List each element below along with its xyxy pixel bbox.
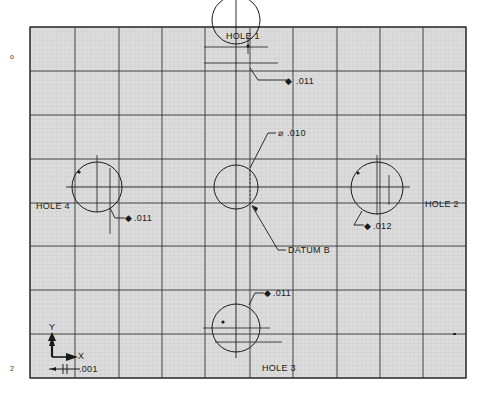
scale-label: .001	[79, 364, 98, 374]
fine-grid	[30, 27, 466, 378]
hole-4-label: HOLE 4	[36, 201, 70, 211]
hole-4-tolerance-symbol: ◆	[125, 213, 132, 223]
hole-3-tolerance: .011	[273, 288, 291, 298]
graph-paper	[30, 27, 466, 378]
hole-4-tolerance: .011	[134, 213, 152, 223]
hole-2-tolerance-symbol: ◆	[364, 221, 371, 231]
hole-3-label: HOLE 3	[262, 363, 296, 373]
hole-2-label: HOLE 2	[425, 199, 459, 209]
y-axis-label: Y	[49, 322, 55, 332]
datum-b-label: DATUM B	[288, 245, 330, 255]
hole-2-tolerance: .012	[373, 221, 392, 231]
hole-1-label: HOLE 1	[226, 31, 260, 41]
hole-3-tolerance-symbol: ◆	[264, 288, 271, 298]
margin-mark-bottom: 2	[10, 365, 14, 372]
datum-b-tolerance: .010	[287, 128, 306, 138]
hole-1-tolerance-symbol: ◆	[285, 76, 292, 86]
datum-b-tolerance-symbol: ⌀	[278, 128, 284, 138]
hole-1-tolerance: .011	[296, 76, 314, 86]
x-axis-label: X	[78, 351, 84, 361]
hole-position-drawing: o 2 HOLE 1 ◆ .011 HOLE 4 ◆ .011 ⌀ .010 D…	[0, 0, 485, 395]
speck-mark	[453, 333, 456, 335]
margin-mark-top: o	[10, 53, 14, 60]
